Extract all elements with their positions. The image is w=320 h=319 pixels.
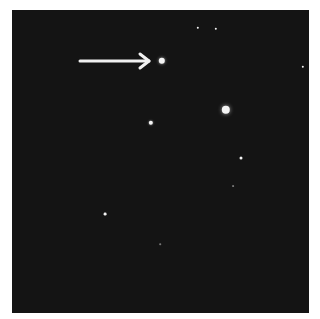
arrow-pointer-icon [0, 0, 320, 319]
star [159, 243, 161, 245]
star [240, 157, 243, 160]
star [232, 185, 234, 187]
star [104, 213, 107, 216]
